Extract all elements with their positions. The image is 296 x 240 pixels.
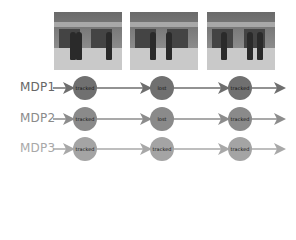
state-node-tracked: tracked (228, 76, 252, 100)
state-node-lost: lost (150, 76, 174, 100)
state-node-tracked: tracked (73, 107, 97, 131)
state-node-tracked: tracked (228, 107, 252, 131)
row-label-mdp3: MDP3 (20, 141, 55, 155)
state-node-lost: lost (150, 107, 174, 131)
state-node-tracked: tracked (73, 76, 97, 100)
row-label-mdp2: MDP2 (20, 111, 55, 125)
state-node-tracked: tracked (150, 137, 174, 161)
state-node-tracked: tracked (228, 137, 252, 161)
row-label-mdp1: MDP1 (20, 80, 55, 94)
state-node-tracked: tracked (73, 137, 97, 161)
